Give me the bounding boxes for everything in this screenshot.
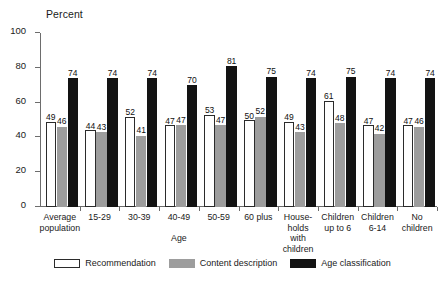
bar-value-label: 74 (386, 69, 395, 78)
bar-group: 534781 (204, 33, 236, 207)
bar-value-label: 42 (375, 124, 384, 133)
bar-value-label: 74 (425, 69, 434, 78)
bar-rec: 49 (46, 122, 56, 207)
bar-value-label: 44 (86, 122, 95, 131)
bar-value-label: 74 (306, 69, 315, 78)
x-axis-tick (318, 207, 319, 211)
chart-legend: RecommendationContent descriptionAge cla… (0, 258, 445, 268)
bar-cd: 47 (176, 125, 186, 207)
y-axis-tick-label: 100 (10, 25, 26, 36)
bar-value-label: 74 (148, 69, 157, 78)
bar-cd: 47 (215, 125, 225, 207)
bar-ac: 74 (107, 78, 117, 207)
x-axis-tick (278, 207, 279, 211)
bar-group: 474274 (363, 33, 395, 207)
bar-cd: 46 (57, 127, 67, 207)
y-axis-tick: 80 (35, 67, 40, 68)
bar-ac: 74 (385, 78, 395, 207)
y-axis-tick: 20 (35, 171, 40, 172)
bar-cd: 43 (96, 132, 106, 207)
bar-value-label: 61 (324, 92, 333, 101)
bar-value-label: 47 (364, 117, 373, 126)
bar-rec: 53 (204, 115, 214, 207)
y-axis-title: Percent (46, 8, 83, 20)
x-axis-tick (397, 207, 398, 211)
legend-item[interactable]: Content description (169, 258, 278, 268)
bar-value-label: 48 (335, 114, 344, 123)
bar-value-label: 50 (245, 112, 254, 121)
bar-ac: 74 (425, 78, 435, 207)
bar-value-label: 47 (403, 117, 412, 126)
bar-ac: 81 (226, 66, 236, 207)
plot-area: 020406080100 494674444374524174474770534… (40, 33, 437, 207)
legend-label: Age classification (321, 258, 391, 268)
bar-group: 474674 (403, 33, 435, 207)
legend-swatch-ac (290, 259, 316, 268)
bar-rec: 47 (363, 125, 373, 207)
bar-value-label: 75 (346, 67, 355, 76)
bar-value-label: 47 (216, 116, 225, 125)
bar-cd: 43 (295, 132, 305, 207)
bar-value-label: 47 (165, 117, 174, 126)
y-axis-tick: 100 (35, 32, 40, 33)
bar-ac: 74 (147, 78, 157, 207)
y-axis-tick: 40 (35, 136, 40, 137)
bar-cd: 42 (374, 134, 384, 207)
bar-group: 474770 (165, 33, 197, 207)
y-axis-tick-label: 20 (15, 164, 26, 175)
bar-value-label: 41 (137, 126, 146, 135)
bar-value-label: 46 (57, 117, 66, 126)
x-axis-tick (159, 207, 160, 211)
bar-value-label: 53 (205, 106, 214, 115)
bar-cd: 52 (255, 117, 265, 207)
bar-ac: 70 (187, 85, 197, 207)
legend-label: Recommendation (85, 258, 156, 268)
bar-value-label: 52 (256, 107, 265, 116)
x-axis-tick (239, 207, 240, 211)
bar-ac: 74 (306, 78, 316, 207)
bar-value-label: 74 (108, 69, 117, 78)
legend-label: Content description (200, 258, 278, 268)
x-axis-tick (199, 207, 200, 211)
bar-rec: 47 (403, 125, 413, 207)
bar-group: 494674 (46, 33, 78, 207)
bar-rec: 44 (85, 130, 95, 207)
x-axis-tick (80, 207, 81, 211)
bar-rec: 52 (125, 117, 135, 207)
bar-value-label: 74 (68, 69, 77, 78)
bar-chart: Percent 020406080100 4946744443745241744… (0, 0, 445, 283)
bar-value-label: 70 (187, 76, 196, 85)
bar-cd: 46 (414, 127, 424, 207)
x-axis-tick (119, 207, 120, 211)
x-axis-category-label: No children (391, 212, 443, 233)
bar-value-label: 49 (284, 113, 293, 122)
bar-group: 444374 (85, 33, 117, 207)
y-axis-tick: 0 (35, 206, 40, 207)
y-axis-tick-label: 0 (21, 199, 26, 210)
bar-ac: 75 (266, 77, 276, 208)
bar-group: 505275 (244, 33, 276, 207)
y-axis-tick: 60 (35, 102, 40, 103)
bar-rec: 49 (284, 122, 294, 207)
legend-item[interactable]: Age classification (290, 258, 391, 268)
y-axis-tick-label: 60 (15, 95, 26, 106)
bar-cd: 48 (335, 123, 345, 207)
bar-group: 494374 (284, 33, 316, 207)
bar-value-label: 46 (414, 117, 423, 126)
bar-value-label: 43 (97, 123, 106, 132)
legend-item[interactable]: Recommendation (54, 258, 156, 268)
legend-swatch-rec (54, 259, 80, 268)
x-axis-tick (358, 207, 359, 211)
y-axis-line (40, 33, 41, 207)
bar-value-label: 49 (46, 113, 55, 122)
bar-rec: 61 (324, 101, 334, 207)
bar-value-label: 75 (267, 67, 276, 76)
bar-group: 614875 (324, 33, 356, 207)
bar-value-label: 81 (227, 57, 236, 66)
bar-value-label: 47 (176, 116, 185, 125)
legend-swatch-cd (169, 259, 195, 268)
bar-value-label: 43 (295, 123, 304, 132)
bar-ac: 75 (346, 77, 356, 208)
bar-cd: 41 (136, 136, 146, 207)
x-axis-tick (437, 207, 438, 211)
